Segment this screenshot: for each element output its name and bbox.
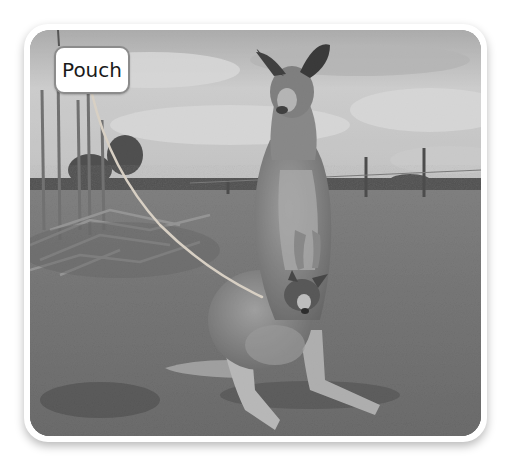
callout-label-pouch: Pouch [54, 46, 130, 94]
callout-label-text: Pouch [62, 58, 122, 82]
figure-canvas: Pouch [0, 0, 514, 464]
